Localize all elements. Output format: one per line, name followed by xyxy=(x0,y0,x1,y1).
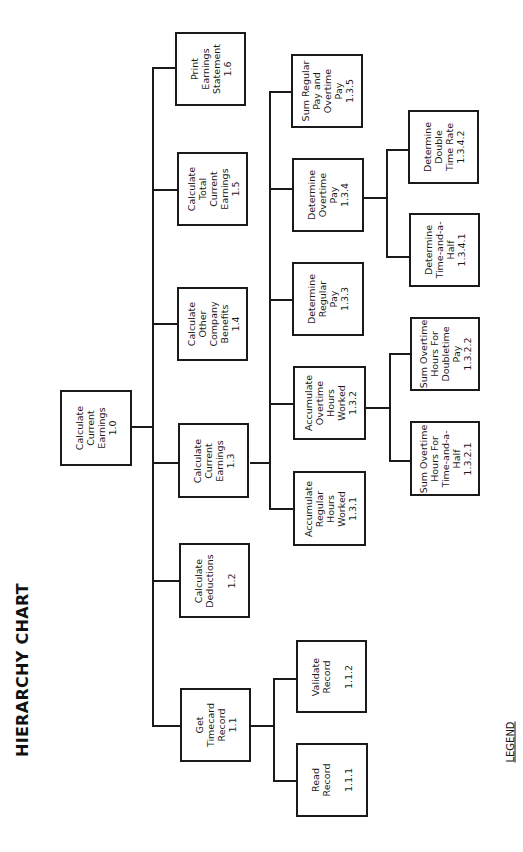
node-label: Print Earnings Statement 1.6 xyxy=(189,44,233,94)
connector-1-3-4-out xyxy=(363,197,387,199)
connector-1-3-1 xyxy=(269,508,293,510)
node-label: Determine Double Time Rate 1.3.4.2 xyxy=(422,122,466,172)
node-label: Calculate Current Earnings 1.3 xyxy=(192,438,236,482)
connector-1-3-2-1 xyxy=(389,460,411,462)
node-1-1[interactable]: Get Timecard Record 1.1 xyxy=(180,688,251,762)
connector-1-1-out xyxy=(250,725,274,727)
node-label: Determine Time-and-a- Half 1.3.4.1 xyxy=(423,221,467,278)
node-label: Accumulate Regular Hours Worked 1.3.1 xyxy=(302,480,357,536)
node-label: Accumulate Overtime Hours Worked 1.3.2 xyxy=(302,375,357,431)
chart-title: HIERARCHY CHART xyxy=(13,583,32,757)
node-1-3-4[interactable]: Determine Overtime Pay 1.3.4 xyxy=(292,158,364,232)
node-label: Get Timecard Record 1.1 xyxy=(194,703,238,747)
node-1-3-1[interactable]: Accumulate Regular Hours Worked 1.3.1 xyxy=(293,471,366,546)
connector-1-4 xyxy=(152,323,178,325)
node-1-3[interactable]: Calculate Current Earnings 1.3 xyxy=(178,423,249,498)
connector-1-3-out xyxy=(250,462,270,464)
bracket-1-1 xyxy=(273,678,275,781)
connector-1-3-3 xyxy=(269,299,293,301)
bracket-level1 xyxy=(152,67,154,726)
node-1-4[interactable]: Calculate Other Company Benefits 1.4 xyxy=(177,287,248,361)
connector-1-3-2-2 xyxy=(389,353,411,355)
legend-label: LEGEND xyxy=(505,721,516,762)
connector-1-2 xyxy=(152,580,180,582)
node-label: Sum Overtime Hours For Doubletime Pay 1.… xyxy=(418,320,473,389)
connector-1-1 xyxy=(152,725,180,727)
connector-1-3-5 xyxy=(269,91,293,93)
node-1-3-4-1[interactable]: Determine Time-and-a- Half 1.3.4.1 xyxy=(409,213,480,287)
node-1-1-1[interactable]: Read Record 1.1.1 xyxy=(296,743,368,817)
node-label: Calculate Total Current Earnings 1.5 xyxy=(185,167,240,211)
node-1-3-2[interactable]: Accumulate Overtime Hours Worked 1.3.2 xyxy=(293,366,366,440)
connector-1-3-2 xyxy=(269,403,293,405)
node-label: Calculate Other Company Benefits 1.4 xyxy=(185,301,240,346)
bracket-1-3-4 xyxy=(386,149,388,257)
connector-1-3 xyxy=(152,462,180,464)
node-label: Sum Regular Pay and Overtime Pay 1.3.5 xyxy=(300,61,355,122)
connector-1-6 xyxy=(152,67,176,69)
connector-1-3-4 xyxy=(269,188,293,190)
connector-1-3-4-2 xyxy=(386,149,410,151)
connector-1-5 xyxy=(152,189,178,191)
node-1-3-3[interactable]: Determine Regular Pay 1.3.3 xyxy=(292,262,364,336)
node-1-6[interactable]: Print Earnings Statement 1.6 xyxy=(175,32,246,106)
node-1-0[interactable]: Calculate Current Earnings 1.0 xyxy=(60,390,132,466)
node-label: Sum Overtime Hours For Time-and-a- Half … xyxy=(418,424,473,493)
node-1-3-4-2[interactable]: Determine Double Time Rate 1.3.4.2 xyxy=(408,110,479,184)
node-label: Calculate Current Earnings 1.0 xyxy=(74,406,118,450)
node-1-3-2-2[interactable]: Sum Overtime Hours For Doubletime Pay 1.… xyxy=(410,317,480,391)
node-label: Calculate Deductions 1.2 xyxy=(193,554,237,608)
hierarchy-chart-canvas: HIERARCHY CHART LEGEND Calculate Current… xyxy=(0,0,523,852)
bracket-1-3-2 xyxy=(389,353,391,461)
node-1-3-2-1[interactable]: Sum Overtime Hours For Time-and-a- Half … xyxy=(410,421,480,496)
node-label: Determine Regular Pay 1.3.3 xyxy=(306,274,350,324)
connector-1-1-1 xyxy=(273,780,297,782)
node-1-3-5[interactable]: Sum Regular Pay and Overtime Pay 1.3.5 xyxy=(291,54,363,128)
node-label: Determine Overtime Pay 1.3.4 xyxy=(306,170,350,220)
node-1-5[interactable]: Calculate Total Current Earnings 1.5 xyxy=(177,152,248,226)
connector-1-3-2-out xyxy=(366,407,390,409)
node-1-2[interactable]: Calculate Deductions 1.2 xyxy=(179,543,250,618)
connector-root xyxy=(131,426,153,428)
connector-1-3-4-1 xyxy=(386,256,410,258)
node-1-1-2[interactable]: Validate Record 1.1.2 xyxy=(296,640,367,713)
connector-1-1-2 xyxy=(273,678,297,680)
node-label: Read Record 1.1.1 xyxy=(310,764,354,797)
node-label: Validate Record 1.1.2 xyxy=(310,657,354,695)
